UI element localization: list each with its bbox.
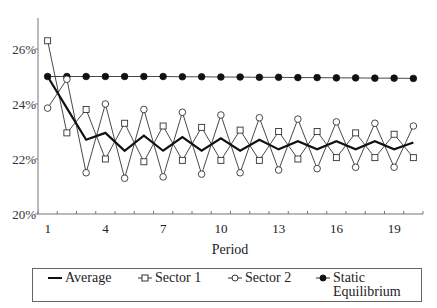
- legend-label: Static Equilibrium: [333, 271, 401, 299]
- open-circle-marker-icon: [410, 123, 417, 130]
- open-square-marker-icon: [122, 120, 128, 126]
- y-tick-label: 20%: [12, 207, 36, 222]
- open-square-marker-icon: [372, 155, 378, 161]
- open-circle-marker-icon: [295, 116, 302, 123]
- x-tick-label: 13: [272, 221, 285, 236]
- open-circle-marker-icon: [391, 164, 398, 171]
- open-square-marker-icon: [410, 155, 416, 161]
- open-circle-marker-icon: [179, 109, 186, 116]
- open-square-marker-icon: [141, 159, 147, 165]
- open-circle-marker-icon: [275, 167, 282, 174]
- open-circle-marker-icon: [83, 169, 90, 176]
- open-square-marker-icon: [391, 131, 397, 137]
- open-circle-marker-icon: [160, 174, 167, 181]
- open-square-marker-icon: [256, 157, 262, 163]
- open-square-marker-icon: [314, 129, 320, 135]
- x-axis-title: Period: [212, 242, 249, 257]
- y-tick-label: 22%: [12, 152, 36, 167]
- legend-item-sector-2: Sector 2: [227, 271, 291, 285]
- open-square-marker-icon: [137, 272, 153, 284]
- filled-circle-marker-icon: [141, 73, 148, 80]
- y-tick-label: 26%: [12, 42, 36, 57]
- filled-circle-marker-icon: [256, 74, 263, 81]
- open-square-marker-icon: [333, 155, 339, 161]
- filled-circle-marker-icon: [83, 73, 90, 80]
- open-square-marker-icon: [102, 156, 108, 162]
- legend-label: Sector 1: [155, 271, 201, 285]
- open-square-marker-icon: [276, 129, 282, 135]
- line-chart: 20%22%24%26%14710131619 Period: [0, 0, 437, 308]
- legend-label: Average: [65, 271, 111, 285]
- open-square-marker-icon: [45, 38, 51, 44]
- open-circle-marker-icon: [237, 169, 244, 176]
- open-square-marker-icon: [199, 124, 205, 130]
- filled-circle-marker-icon: [218, 74, 225, 81]
- open-circle-marker-icon: [333, 119, 340, 126]
- open-circle-marker-icon: [352, 164, 359, 171]
- open-circle-marker-icon: [141, 106, 148, 113]
- filled-circle-marker-icon: [179, 73, 186, 80]
- filled-circle-marker-icon: [121, 73, 128, 80]
- open-circle-marker-icon: [314, 165, 321, 172]
- x-tick-label: 4: [102, 221, 109, 236]
- open-square-marker-icon: [160, 123, 166, 129]
- open-circle-marker-icon: [218, 112, 225, 119]
- legend-item-average: Average: [47, 271, 111, 285]
- series-layer: [44, 38, 416, 182]
- open-circle-marker-icon: [372, 120, 379, 127]
- open-square-marker-icon: [83, 107, 89, 113]
- filled-circle-marker-icon: [410, 75, 417, 82]
- open-circle-marker-icon: [44, 105, 51, 112]
- thick-line-icon: [47, 272, 63, 284]
- filled-circle-marker-icon: [237, 74, 244, 81]
- axes: 20%22%24%26%14710131619: [12, 18, 423, 236]
- filled-circle-marker-icon: [391, 75, 398, 82]
- x-tick-label: 1: [44, 221, 51, 236]
- open-circle-marker-icon: [121, 175, 128, 182]
- open-circle-marker-icon: [256, 114, 263, 121]
- legend-label: Sector 2: [245, 271, 291, 285]
- x-tick-label: 19: [388, 221, 401, 236]
- filled-circle-marker-icon: [198, 73, 205, 80]
- open-square-marker-icon: [237, 127, 243, 133]
- filled-circle-marker-icon: [372, 75, 379, 82]
- filled-circle-marker-icon: [314, 74, 321, 81]
- open-square-marker-icon: [179, 157, 185, 163]
- filled-circle-marker-icon: [295, 74, 302, 81]
- open-square-marker-icon: [353, 130, 359, 136]
- filled-circle-marker-icon: [352, 75, 359, 82]
- filled-circle-marker-icon: [160, 73, 167, 80]
- series-line: [48, 79, 414, 178]
- filled-circle-marker-icon: [333, 75, 340, 82]
- open-circle-marker-icon: [102, 101, 109, 108]
- legend-item-sector-1: Sector 1: [137, 271, 201, 285]
- series-sector-2: [44, 76, 416, 182]
- open-square-marker-icon: [295, 156, 301, 162]
- x-tick-label: 16: [330, 221, 344, 236]
- series-static-equilibrium: [44, 73, 416, 82]
- x-tick-label: 10: [214, 221, 227, 236]
- open-square-marker-icon: [218, 157, 224, 163]
- y-tick-label: 24%: [12, 97, 36, 112]
- open-circle-marker-icon: [227, 272, 243, 284]
- open-circle-marker-icon: [198, 171, 205, 178]
- x-tick-label: 7: [160, 221, 167, 236]
- legend: Average Sector 1 Sector 2 Static Equilib…: [32, 268, 422, 302]
- filled-circle-marker-icon: [275, 74, 282, 81]
- filled-circle-marker-icon: [315, 272, 331, 284]
- open-circle-marker-icon: [64, 76, 71, 83]
- open-square-marker-icon: [64, 130, 70, 136]
- legend-item-static-equilibrium: Static Equilibrium: [315, 271, 401, 299]
- filled-circle-marker-icon: [102, 73, 109, 80]
